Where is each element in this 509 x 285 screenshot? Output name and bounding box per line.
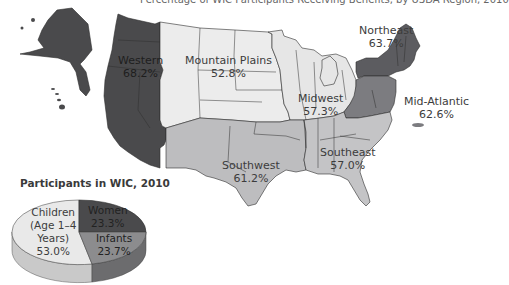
pie-label-name: Women [88, 204, 128, 217]
pie-label-children: Children (Age 1–4 Years) 53.0% [30, 206, 76, 258]
pie-label-line: Children [30, 206, 76, 219]
pie-label-women: Women 23.3% [88, 204, 128, 230]
pie-label-line: (Age 1–4 [30, 219, 76, 232]
pie-label-infants: Infants 23.7% [96, 232, 132, 258]
pie-label-value: 23.3% [88, 217, 128, 230]
pie-label-name: Infants [96, 232, 132, 245]
pie-label-line: Years) [30, 232, 76, 245]
pie-label-value: 53.0% [30, 245, 76, 258]
pie-label-value: 23.7% [96, 245, 132, 258]
